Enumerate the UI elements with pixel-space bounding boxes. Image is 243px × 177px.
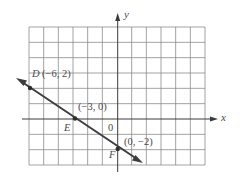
point-d-marker: [28, 86, 32, 90]
point-e-name: E: [64, 123, 70, 134]
graphed-line: [16, 78, 143, 163]
x-axis-arrow-icon: [210, 117, 218, 122]
origin-label: 0: [108, 123, 113, 134]
y-axis-label: y: [124, 9, 129, 20]
point-f-coords: (0, −2): [124, 137, 153, 148]
point-e-marker: [73, 116, 77, 120]
point-e-coords: (−3, 0): [78, 102, 107, 113]
point-d-name: D: [32, 69, 40, 80]
y-axis-arrow-icon: [115, 13, 120, 21]
x-axis-label: x: [221, 112, 226, 123]
grid-lines: [29, 27, 205, 165]
point-f-marker: [116, 147, 120, 151]
point-f-name: F: [109, 150, 115, 161]
point-d-coords: (−6, 2): [42, 69, 71, 80]
coordinate-graph: [0, 0, 243, 177]
